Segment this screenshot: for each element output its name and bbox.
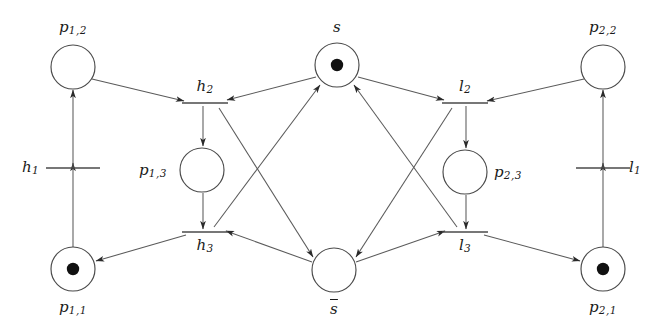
token-s — [331, 59, 343, 71]
place-circle-p22 — [581, 45, 625, 89]
place-label-sbar: s — [330, 301, 338, 317]
arc-s-to-h2 — [227, 77, 316, 100]
place-label-p22: p2,2 — [589, 20, 617, 36]
arc-h3-to-s — [214, 85, 320, 227]
place-label-name-sbar: s — [330, 300, 338, 318]
place-label-name-p13: p — [139, 161, 149, 179]
transition-label-subscript-h1: 1 — [32, 164, 39, 176]
transition-label-h1: h1 — [22, 160, 39, 176]
place-label-name-p22: p — [589, 18, 599, 36]
arc-l3-to-s — [354, 85, 457, 227]
token-p11 — [67, 263, 79, 275]
place-circle-sbar — [312, 248, 356, 292]
petri-net-canvas — [0, 0, 656, 333]
place-p12 — [51, 45, 95, 89]
place-label-s: s — [333, 20, 341, 35]
transition-label-subscript-h3: 3 — [206, 242, 213, 254]
place-p23 — [443, 150, 487, 194]
arc-s-to-l2 — [358, 77, 444, 100]
places-layer — [51, 43, 625, 292]
transitions-layer — [46, 103, 630, 232]
transition-label-subscript-l2: 2 — [464, 83, 471, 95]
place-p21 — [581, 247, 625, 291]
place-label-subscript-p21: 2,1 — [599, 304, 617, 316]
token-p21 — [597, 263, 609, 275]
place-label-p12: p1,2 — [59, 20, 87, 36]
place-label-subscript-p22: 2,2 — [599, 24, 617, 36]
petri-net-figure: p1,2p1,1p1,3ssp2,3p2,2p2,1h1h2h3l2l3l1 — [0, 0, 656, 333]
transition-label-h2: h2 — [197, 79, 214, 95]
transition-label-subscript-h2: 2 — [206, 83, 213, 95]
place-circle-p23 — [443, 150, 487, 194]
place-p22 — [581, 45, 625, 89]
arc-h2-to-sbar — [219, 108, 313, 257]
place-label-name-s: s — [333, 18, 341, 36]
transition-label-name-h2: h — [197, 77, 207, 95]
place-label-subscript-p13: 1,3 — [149, 167, 167, 179]
transition-label-name-h1: h — [22, 158, 32, 176]
transition-label-l3: l3 — [459, 238, 471, 254]
place-label-name-p21: p — [589, 298, 599, 316]
place-circle-p12 — [51, 45, 95, 89]
arc-l3-to-p21 — [484, 235, 580, 261]
arc-p22-to-l2 — [487, 79, 584, 101]
place-label-subscript-p12: 1,2 — [69, 24, 87, 36]
place-label-subscript-p23: 2,3 — [504, 169, 522, 181]
transition-label-name-h3: h — [197, 236, 207, 254]
arc-l2-to-sbar — [356, 108, 452, 257]
place-label-name-p23: p — [494, 163, 504, 181]
place-label-name-p12: p — [59, 18, 69, 36]
transition-label-subscript-l1: 1 — [634, 164, 641, 176]
place-p13 — [180, 148, 224, 192]
arc-p12-to-h2 — [92, 79, 184, 101]
transition-label-l2: l2 — [459, 79, 471, 95]
transition-label-l1: l1 — [629, 160, 641, 176]
place-sbar — [312, 248, 356, 292]
place-label-p11: p1,1 — [59, 300, 87, 316]
place-p11 — [51, 247, 95, 291]
place-circle-p13 — [180, 148, 224, 192]
transition-label-subscript-l3: 3 — [464, 242, 471, 254]
arc-h3-to-p11 — [96, 235, 186, 261]
transition-label-h3: h3 — [197, 238, 214, 254]
place-label-name-p11: p — [59, 298, 69, 316]
place-label-p21: p2,1 — [589, 300, 617, 316]
place-label-p23: p2,3 — [494, 165, 522, 181]
place-s — [315, 43, 359, 87]
place-label-subscript-p11: 1,1 — [69, 304, 87, 316]
place-label-p13: p1,3 — [139, 163, 167, 179]
